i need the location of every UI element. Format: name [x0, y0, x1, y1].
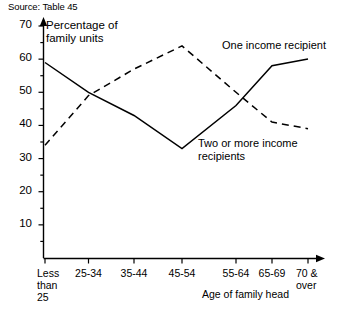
y-tick-label: 40 — [10, 117, 32, 129]
x-axis-arrow-icon — [316, 255, 325, 262]
y-tick-label: 70 — [10, 18, 32, 30]
y-axis-arrow-icon — [40, 17, 47, 26]
y-axis-ticks — [39, 26, 44, 241]
x-tick-label-line: 70 & — [296, 267, 350, 279]
y-tick-label: 10 — [10, 217, 32, 229]
x-tick-label-line: than — [37, 279, 91, 291]
x-tick-label-line: 45-54 — [155, 267, 209, 279]
x-axis-ticks — [45, 259, 308, 264]
x-tick-label: 70 &over — [296, 267, 350, 291]
x-tick-label-line: 35-44 — [107, 267, 161, 279]
x-tick-label: 65-69 — [245, 267, 299, 279]
x-tick-label-line: 25 — [37, 291, 91, 303]
axes — [40, 17, 325, 262]
x-tick-label-line: over — [296, 279, 350, 291]
y-tick-label: 50 — [10, 84, 32, 96]
series-line-one-income — [45, 59, 308, 149]
data-series-group — [45, 46, 308, 149]
x-tick-label: 45-54 — [155, 267, 209, 279]
series-line-two-or-more-income — [45, 46, 308, 145]
y-tick-label: 60 — [10, 51, 32, 63]
x-tick-label: 35-44 — [107, 267, 161, 279]
x-tick-label-line: 65-69 — [245, 267, 299, 279]
y-tick-label: 20 — [10, 184, 32, 196]
line-chart: Source: Table 45 Percentage of family un… — [0, 0, 360, 319]
y-tick-label: 30 — [10, 151, 32, 163]
